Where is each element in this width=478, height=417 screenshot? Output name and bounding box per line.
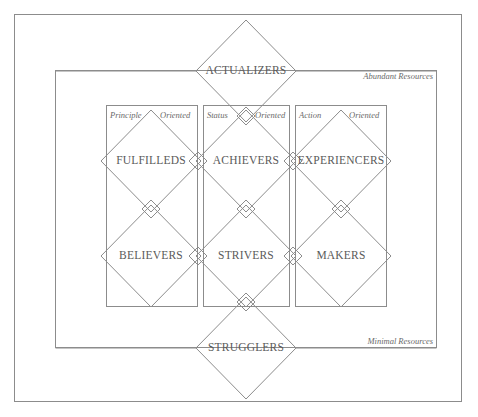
vals-framework-diagram: Principle Oriented Status Oriented Actio… (0, 0, 478, 417)
label-minimal-resources: Minimal Resources (366, 336, 433, 346)
label-abundant-resources: Abundant Resources (362, 71, 433, 81)
column-header-action-right: Oriented (349, 110, 380, 120)
label-fulfilleds: FULFILLEDS (116, 154, 186, 166)
label-actualizers: ACTUALIZERS (206, 64, 287, 76)
label-strugglers: STRUGGLERS (208, 341, 284, 353)
label-achievers: ACHIEVERS (213, 154, 279, 166)
column-header-principle-right: Oriented (160, 110, 191, 120)
label-strivers: STRIVERS (218, 249, 274, 261)
small-diamond-base-joint (237, 293, 255, 311)
column-header-status-left: Status (207, 110, 228, 120)
small-diamond-action-mid (332, 200, 350, 218)
small-diamond-lower-right-joint (284, 247, 302, 265)
small-diamond-principle-mid (142, 200, 160, 218)
column-header-status-right: Oriented (255, 110, 286, 120)
small-diamond-status-mid (237, 200, 255, 218)
column-rect-action (296, 106, 387, 307)
label-makers: MAKERS (316, 249, 365, 261)
vals-diagram-canvas: Principle Oriented Status Oriented Actio… (0, 0, 478, 417)
label-experiencers: EXPERIENCERS (298, 154, 385, 166)
column-header-principle-left: Principle (109, 110, 142, 120)
column-header-action-left: Action (298, 110, 321, 120)
label-believers: BELIEVERS (119, 249, 183, 261)
